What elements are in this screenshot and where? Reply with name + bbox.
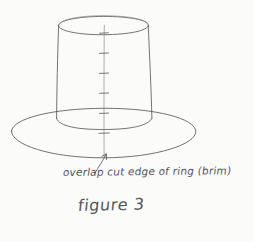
sketch-page: overlap cut edge of ring (brim) figure 3 [0, 0, 254, 242]
crown-top-ellipse [58, 16, 148, 34]
crown-right-wall [148, 25, 152, 118]
overlap-seam-line [99, 25, 109, 158]
overlap-callout-label: overlap cut edge of ring (brim) [62, 164, 232, 178]
crown-left-wall [57, 26, 59, 119]
figure-caption: figure 3 [77, 195, 146, 215]
crown-top-ellipse-second-pass [60, 16, 148, 25]
